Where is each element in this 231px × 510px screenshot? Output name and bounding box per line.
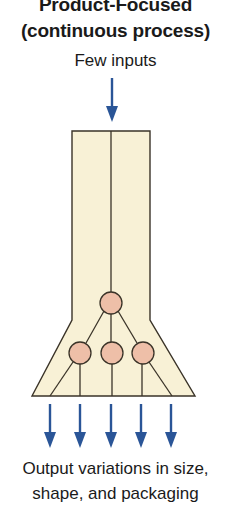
output-arrows [44,404,177,448]
lower-node-right [132,342,154,364]
output-arrow-icon [165,404,177,448]
output-label-line1: Output variations in size, [0,459,231,479]
lower-node-left [69,342,91,364]
output-label-line2: shape, and packaging [0,484,231,504]
top-node [100,292,122,314]
output-arrow-icon [105,404,117,448]
input-arrow-icon [106,78,118,122]
lower-node-middle [101,342,123,364]
output-arrow-icon [44,404,56,448]
output-arrow-icon [135,404,147,448]
process-flow-diagram [0,0,231,510]
output-arrow-icon [74,404,86,448]
